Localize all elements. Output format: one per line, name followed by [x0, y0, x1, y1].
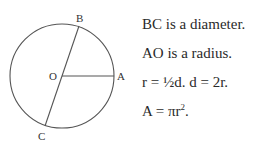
label-a: A	[117, 70, 125, 82]
area-formula-base: A = πr	[142, 103, 181, 119]
note-diameter: BC is a diameter.	[142, 10, 264, 39]
note-radius-diameter-relation: r = ½d. d = 2r.	[142, 68, 264, 97]
note-area-formula: A = πr2.	[142, 97, 264, 126]
label-o: O	[49, 70, 57, 82]
circle-diagram: B O A C	[0, 0, 132, 147]
note-radius: AO is a radius.	[142, 39, 264, 68]
area-formula-period: .	[185, 103, 189, 119]
notes-panel: BC is a diameter. AO is a radius. r = ½d…	[142, 10, 264, 126]
label-c: C	[38, 130, 45, 142]
label-b: B	[76, 12, 83, 24]
